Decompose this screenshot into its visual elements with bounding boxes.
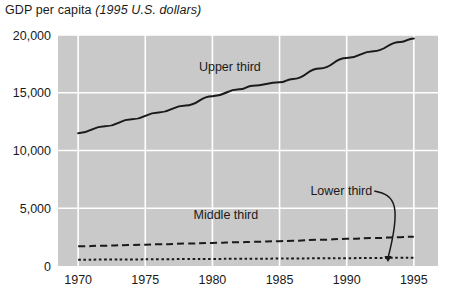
x-tick-label: 1990: [333, 273, 361, 287]
y-tick-label: 20,000: [13, 29, 51, 43]
x-tick-label: 1980: [199, 273, 227, 287]
x-axis-labels: 197019751980198519901995: [64, 273, 428, 287]
x-tick-label: 1975: [131, 273, 159, 287]
annotation-upper-third: Upper third: [199, 60, 261, 74]
x-tick-label: 1985: [266, 273, 294, 287]
y-tick-label: 0: [44, 260, 51, 274]
y-axis-labels: 05,00010,00015,00020,000: [13, 29, 51, 274]
x-tick-label: 1995: [400, 273, 428, 287]
annotation-lower-third: Lower third: [310, 184, 372, 198]
y-tick-label: 5,000: [20, 202, 51, 216]
chart-plot-area: 05,00010,00015,00020,000 197019751980198…: [0, 0, 461, 305]
y-tick-label: 15,000: [13, 86, 51, 100]
x-tick-label: 1970: [64, 273, 92, 287]
y-tick-label: 10,000: [13, 144, 51, 158]
annotation-middle-third: Middle third: [194, 208, 259, 222]
chart-figure: GDP per capita (1995 U.S. dollars) 05,00…: [0, 0, 461, 305]
